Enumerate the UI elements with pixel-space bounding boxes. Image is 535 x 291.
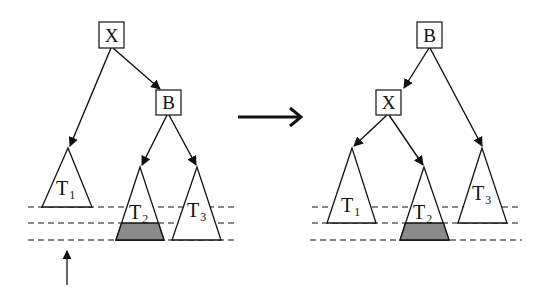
edge-b-t3 <box>430 48 482 146</box>
svg-text:B: B <box>162 92 175 113</box>
svg-text:B: B <box>423 25 436 46</box>
node-b: B <box>156 90 181 115</box>
subtree-t2: T2 <box>400 167 449 240</box>
shaded-extra-level <box>400 223 449 240</box>
node-b: B <box>417 22 442 48</box>
edge-b-t3 <box>169 115 196 165</box>
rotation-arrow-icon <box>238 108 301 126</box>
edge-x-b <box>113 48 160 89</box>
edges-right <box>354 48 482 165</box>
node-x: X <box>376 90 401 115</box>
edge-b-t2 <box>142 115 167 165</box>
tree-rotation-diagram: X B T1 T2 T3 <box>0 0 535 291</box>
svg-text:X: X <box>105 25 119 46</box>
subtree-t3: T3 <box>458 148 507 223</box>
after-tree: B X T1 T2 T3 <box>310 22 522 240</box>
edge-x-t1 <box>354 115 387 146</box>
subtree-t1: T1 <box>42 148 92 207</box>
subtree-t2: T2 <box>116 167 164 240</box>
shaded-extra-level <box>116 223 164 240</box>
node-x: X <box>99 22 124 48</box>
subtree-t1: T1 <box>327 148 376 223</box>
before-tree: X B T1 T2 T3 <box>28 22 238 285</box>
edge-b-x <box>404 48 429 88</box>
subtree-t3: T3 <box>172 167 221 240</box>
edge-x-t1 <box>70 48 111 146</box>
svg-text:X: X <box>382 92 396 113</box>
edge-x-t2 <box>389 115 423 165</box>
